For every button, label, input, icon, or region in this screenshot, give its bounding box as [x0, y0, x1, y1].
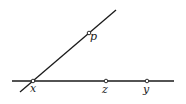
point-y-label: y: [142, 83, 150, 96]
point-z: z: [101, 79, 108, 96]
point-z-label: z: [101, 83, 108, 96]
point-x-label: x: [30, 82, 37, 95]
geometry-diagram: x p z y: [0, 0, 186, 104]
point-p: p: [87, 30, 97, 43]
point-x: x: [30, 79, 37, 95]
point-y: y: [142, 79, 150, 96]
point-p-label: p: [90, 30, 97, 43]
